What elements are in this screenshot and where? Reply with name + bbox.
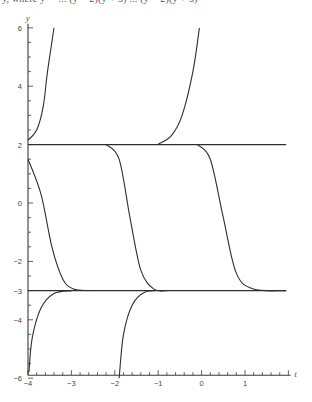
solution-curve bbox=[28, 159, 89, 290]
y-tick-label: −6 bbox=[13, 374, 22, 383]
x-tick-label: −4 bbox=[24, 379, 33, 388]
y-tick-label: 0 bbox=[18, 199, 22, 208]
x-tick-label: −3 bbox=[67, 379, 76, 388]
y-tick-label: 4 bbox=[18, 82, 22, 91]
y-tick-label: 6 bbox=[18, 24, 22, 33]
solution-curve bbox=[28, 28, 54, 140]
y-axis-label: y bbox=[25, 14, 30, 23]
solution-curve bbox=[197, 145, 286, 291]
solution-curve bbox=[158, 28, 199, 144]
slope-solution-plot: −4−3−2−101t6420−2−3−4−6y bbox=[0, 0, 312, 402]
solution-curve bbox=[29, 291, 72, 373]
x-axis-label: t bbox=[295, 370, 298, 379]
x-tick-label: −1 bbox=[154, 379, 163, 388]
y-tick-label: −4 bbox=[13, 316, 22, 325]
y-tick-label: 2 bbox=[18, 141, 22, 150]
y-tick-label: −3 bbox=[13, 287, 22, 296]
x-tick-label: 1 bbox=[243, 379, 247, 388]
y-tick-label: −2 bbox=[13, 257, 22, 266]
x-tick-label: 0 bbox=[200, 379, 204, 388]
solution-curve bbox=[119, 290, 162, 378]
solution-curve bbox=[106, 145, 167, 291]
x-tick-label: −2 bbox=[111, 379, 120, 388]
